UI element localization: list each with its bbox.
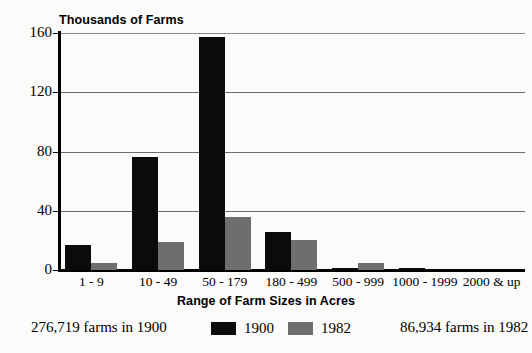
- y-axis-tick-label: 160: [6, 24, 52, 41]
- bar-1900: [132, 157, 158, 270]
- bar-group: [458, 33, 525, 270]
- y-axis-tick-label: 120: [6, 83, 52, 100]
- y-axis-tick-label: 80: [6, 143, 52, 160]
- y-axis-tick-label: 40: [6, 202, 52, 219]
- bar-1900: [399, 268, 425, 270]
- x-axis-tick-label: 1000 - 1999: [392, 274, 459, 290]
- y-axis-title: Thousands of Farms: [59, 13, 184, 27]
- bar-1900: [332, 268, 358, 270]
- legend-swatch-1982-icon: [288, 322, 313, 335]
- bar-1982: [291, 240, 317, 270]
- footnote-1982: 86,934 farms in 1982: [400, 319, 528, 336]
- x-axis-tick-label: 2000 & up: [458, 274, 525, 290]
- legend-entry-1900: 1900: [211, 320, 274, 337]
- x-axis-tick-label: 10 - 49: [125, 274, 192, 290]
- bar-chart: Thousands of Farms 04080120160 1 - 910 -…: [0, 0, 532, 353]
- bar-1982: [91, 263, 117, 270]
- bar-group: [125, 33, 192, 270]
- bars-layer: [58, 33, 525, 270]
- bar-group: [191, 33, 258, 270]
- x-axis-title: Range of Farm Sizes in Acres: [0, 294, 532, 308]
- bar-group: [58, 33, 125, 270]
- footnote-1900: 276,719 farms in 1900: [31, 319, 167, 336]
- bar-1900: [265, 232, 291, 271]
- legend-swatch-1900-icon: [211, 322, 236, 335]
- bar-group: [325, 33, 392, 270]
- x-axis-tick-label: 500 - 999: [325, 274, 392, 290]
- bar-1982: [158, 242, 184, 270]
- x-axis-tick-label: 50 - 179: [191, 274, 258, 290]
- legend-label-1982: 1982: [321, 320, 351, 337]
- x-axis-tick-label: 180 - 499: [258, 274, 325, 290]
- bar-1900: [199, 37, 225, 270]
- legend-label-1900: 1900: [244, 320, 274, 337]
- bar-1900: [65, 245, 91, 270]
- bar-group: [258, 33, 325, 270]
- x-axis-tick-labels: 1 - 910 - 4950 - 179180 - 499500 - 99910…: [0, 274, 532, 292]
- bar-1982: [358, 263, 384, 270]
- chart-footer: 276,719 farms in 1900 1900 1982 86,934 f…: [0, 319, 532, 345]
- x-axis-tick-label: 1 - 9: [58, 274, 125, 290]
- bar-1982: [225, 217, 251, 270]
- bar-group: [392, 33, 459, 270]
- legend-entry-1982: 1982: [288, 320, 351, 337]
